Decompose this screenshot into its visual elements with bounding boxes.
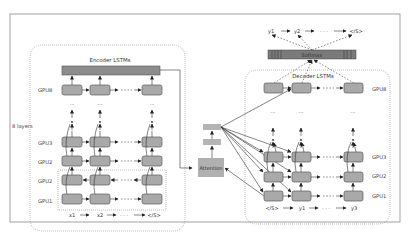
decoder-lstm-cell (344, 191, 363, 201)
decoder-lstm-cell (344, 172, 363, 182)
encoder-lstm-cell (90, 85, 110, 95)
decoder-output: </S> (349, 28, 362, 34)
decoder-lstm-cell (344, 83, 363, 93)
decoder-lstm-cell (264, 172, 283, 182)
encoder-lstm-cell (90, 175, 110, 185)
context-box (203, 124, 221, 130)
encoder-lstm-cell (142, 85, 162, 95)
decoder-input: </S> (265, 205, 278, 211)
encoder-input: x1 (69, 212, 75, 218)
encoder-lstm-cell (90, 137, 110, 147)
decoder-gpu-label: GPU3 (372, 154, 386, 160)
encoder-input: x2 (97, 212, 103, 218)
encoder-input-ellipsis: · · · (120, 212, 128, 218)
encoder-gpu-label: GPU2 (38, 178, 52, 184)
layers-label: 8 layers (12, 123, 33, 130)
decoder-gpu-label: GPU1 (372, 193, 386, 199)
encoder-lstm-cell (142, 175, 162, 185)
svg-text:···: ··· (98, 101, 103, 107)
attention-label: Attention (199, 165, 222, 171)
encoder-output-bar (62, 66, 160, 75)
decoder-lstm-cell (264, 83, 283, 93)
encoder-lstm-cell (62, 156, 82, 166)
decoder-gpu-label: GPU8 (372, 86, 386, 92)
decoder-input: y3 (351, 205, 357, 212)
encoder-gpu-label: GPU3 (38, 140, 52, 146)
attention-hidden-box (203, 139, 221, 145)
softmax-label: Softmax (302, 52, 323, 58)
encoder-lstm-cell (90, 156, 110, 166)
svg-text:···: ··· (150, 101, 155, 107)
gnmt-architecture-diagram: Encoder LSTMs GPU8 8 layers GPU3 GPU2 GP… (0, 0, 415, 248)
svg-text:· · ·: · · · (320, 28, 328, 34)
decoder-gpu-label: GPU2 (372, 173, 386, 179)
decoder-input-ellipsis: · · · (322, 205, 330, 211)
encoder-lstm-cell (142, 156, 162, 166)
decoder-lstm-cell (292, 83, 311, 93)
encoder-gpu-label: GPU1 (38, 198, 52, 204)
encoder-lstm-cell (62, 85, 82, 95)
decoder-input: y1 (299, 205, 305, 212)
encoder-lstm-cell (142, 137, 162, 147)
decoder-output: y1 (268, 28, 274, 35)
svg-text:···: ··· (70, 101, 75, 107)
decoder-lstm-cell (292, 191, 311, 201)
decoder-output: y2 (294, 28, 300, 35)
svg-text:···: ··· (351, 109, 356, 115)
encoder-gpu-label: GPU2 (38, 159, 52, 165)
decoder-title: Decoder LSTMs (292, 73, 334, 79)
svg-text:···: ··· (299, 109, 304, 115)
decoder-lstm-cell (264, 191, 283, 201)
encoder-lstm-cell (62, 194, 82, 204)
encoder-lstm-cell (62, 137, 82, 147)
encoder-gpu-label: GPU8 (38, 87, 52, 93)
svg-text:···: ··· (271, 109, 276, 115)
decoder-lstm-cell (292, 172, 311, 182)
encoder-input: </S> (147, 212, 160, 218)
encoder-title: Encoder LSTMs (90, 57, 131, 63)
encoder-lstm-cell (62, 175, 82, 185)
encoder-lstm-cell (142, 194, 162, 204)
encoder-lstm-cell (90, 194, 110, 204)
